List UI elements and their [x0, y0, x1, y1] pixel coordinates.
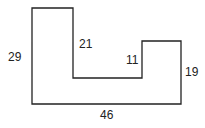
label-right-side: 19: [185, 66, 198, 78]
label-inner-left-vertical: 21: [79, 38, 92, 50]
label-left-side: 29: [8, 51, 21, 63]
l-shaped-polygon: [32, 8, 181, 104]
label-bottom: 46: [100, 109, 113, 121]
diagram-canvas: 29 21 11 19 46: [0, 0, 205, 128]
label-inner-right-vertical: 11: [126, 54, 138, 66]
